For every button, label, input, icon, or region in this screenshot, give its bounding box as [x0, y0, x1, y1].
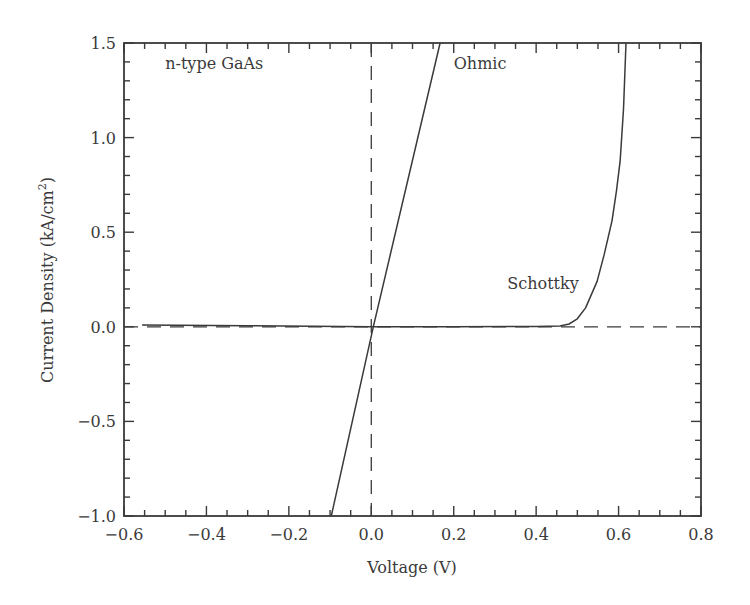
annotation-schottky: Schottky — [507, 274, 578, 293]
y-tick-label: 1.5 — [91, 34, 116, 53]
y-tick-label: 0.0 — [91, 318, 116, 337]
x-tick-label: 0.0 — [359, 525, 384, 544]
series-ohmic — [331, 43, 440, 516]
x-tick-label: 0.4 — [523, 525, 548, 544]
x-axis-title: Voltage (V) — [366, 558, 457, 577]
x-tick-label: −0.6 — [105, 525, 144, 544]
x-tick-label: 0.6 — [606, 525, 631, 544]
y-axis-title-sup: 2 — [36, 183, 49, 190]
y-tick-label: −1.0 — [77, 507, 116, 526]
x-tick-label: −0.2 — [269, 525, 308, 544]
x-tick-label: 0.2 — [441, 525, 466, 544]
y-axis-title-tail: ) — [38, 177, 57, 183]
annotation-ohmic: Ohmic — [454, 54, 507, 73]
x-tick-label: 0.8 — [688, 525, 713, 544]
plot-frame — [124, 43, 701, 516]
annotation-n-type-gaas: n-type GaAs — [165, 54, 263, 73]
y-tick-label: 0.5 — [91, 223, 116, 242]
chart: −0.6−0.4−0.20.00.20.40.60.8−1.0−0.50.00.… — [0, 0, 750, 605]
y-tick-label: 1.0 — [91, 129, 116, 148]
x-tick-label: −0.4 — [187, 525, 226, 544]
y-axis-title-main: Current Density (kA/cm — [38, 190, 57, 383]
y-axis-title: Current Density (kA/cm2) — [36, 177, 57, 383]
y-tick-label: −0.5 — [77, 412, 116, 431]
